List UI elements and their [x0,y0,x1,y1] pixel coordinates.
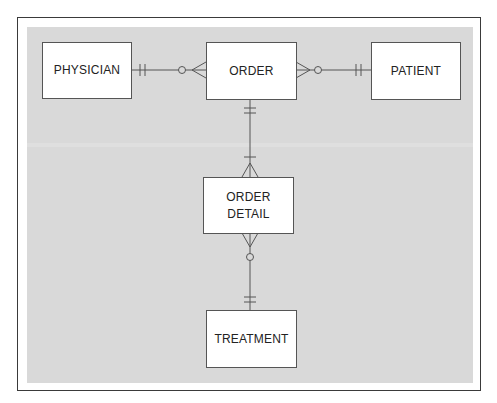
relationship-order-patient [296,62,371,78]
entity-physician: PHYSICIAN [42,42,132,99]
crows-foot-icon [192,70,206,78]
entity-treatment: TREATMENT [206,310,297,368]
crows-foot-icon [242,233,250,247]
relationship-order-orderdetail [242,99,258,177]
zero-circle-icon [315,67,322,74]
crows-foot-icon [296,62,310,70]
entity-label: PHYSICIAN [54,62,120,79]
crows-foot-icon [250,233,258,247]
relationship-orderdetail-treatment [242,233,258,310]
crows-foot-icon [296,70,310,78]
zero-circle-icon [247,254,254,261]
entity-order: ORDER [206,42,297,100]
entity-label: TREATMENT [214,331,288,348]
crows-foot-icon [242,163,250,177]
entity-label: PATIENT [391,63,441,80]
zero-circle-icon [179,67,186,74]
entity-order-detail: ORDER DETAIL [203,177,294,234]
entity-label: ORDER [229,63,273,80]
crows-foot-icon [250,163,258,177]
entity-patient: PATIENT [371,42,461,100]
crows-foot-icon [192,62,206,70]
entity-label-line2: DETAIL [227,206,269,223]
relationship-physician-order [131,62,206,78]
entity-label-line1: ORDER [226,189,270,206]
